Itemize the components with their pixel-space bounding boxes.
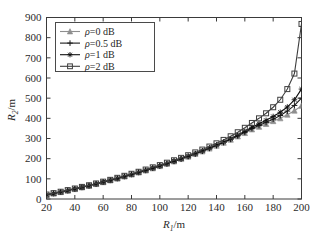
- y-tick-label: 200: [25, 152, 42, 164]
- x-tick-label: 120: [180, 201, 197, 213]
- data-point-marker: [292, 97, 298, 103]
- y-tick-label: 700: [25, 52, 42, 64]
- x-tick-label: 200: [293, 201, 310, 213]
- line-chart: 2040608010012014016018020001002003004005…: [0, 0, 324, 243]
- figure-container: 2040608010012014016018020001002003004005…: [0, 0, 324, 243]
- y-tick-label: 400: [25, 112, 42, 124]
- y-tick-label: 300: [25, 132, 42, 144]
- x-tick-label: 60: [98, 201, 110, 213]
- x-tick-label: 80: [126, 201, 138, 213]
- data-point-marker: [256, 121, 262, 127]
- x-tick-label: 100: [152, 201, 169, 213]
- x-tick-label: 20: [41, 201, 53, 213]
- legend-label: ρ=0.5 dB: [84, 38, 122, 49]
- y-tick-label: 800: [25, 31, 42, 43]
- data-point-marker: [277, 109, 283, 115]
- chart-legend[interactable]: ρ=0 dBρ=0.5 dBρ=1 dBρ=2 dB: [56, 23, 155, 72]
- y-tick-label: 100: [25, 173, 42, 185]
- x-tick-label: 40: [69, 201, 81, 213]
- legend-label: ρ=2 dB: [84, 61, 115, 72]
- data-point-marker: [67, 52, 72, 57]
- x-tick-label: 160: [237, 201, 254, 213]
- x-tick-label: 140: [208, 201, 225, 213]
- y-tick-label: 500: [25, 92, 42, 104]
- data-point-marker: [263, 118, 269, 124]
- y-tick-label: 0: [36, 193, 42, 205]
- y-tick-label: 900: [25, 11, 42, 23]
- data-point-marker: [285, 104, 291, 110]
- y-tick-label: 600: [25, 72, 42, 84]
- legend-label: ρ=0 dB: [84, 26, 115, 37]
- legend-label: ρ=1 dB: [84, 49, 115, 60]
- x-tick-label: 180: [265, 201, 282, 213]
- data-point-marker: [270, 114, 276, 120]
